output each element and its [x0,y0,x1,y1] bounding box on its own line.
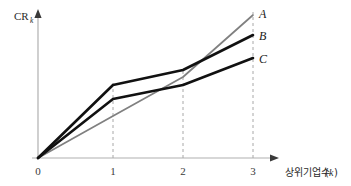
series-line-c [38,58,253,158]
cr-k-line-chart: 0 1 2 3 A B C CR k 상위기업수 ( k ) [0,0,351,186]
y-axis-arrow-icon [34,9,41,18]
x-axis-title: 상위기업수 [285,166,330,178]
series-label-c: C [259,52,268,66]
chart-figure: 0 1 2 3 A B C CR k 상위기업수 ( k ) [0,0,351,186]
series-label-a: A [258,7,267,21]
x-axis-arrow-icon [270,154,279,161]
x-axis-title-paren-close: ) [334,167,338,178]
series-label-b: B [259,29,267,43]
y-axis-title: CR [14,10,29,22]
x-tick-label-0: 0 [35,165,41,177]
x-tick-label-3: 3 [250,165,256,177]
y-axis-title-subscript: k [30,16,34,25]
x-tick-label-1: 1 [110,165,116,177]
series-line-a [38,15,253,158]
x-tick-label-2: 2 [180,165,186,177]
